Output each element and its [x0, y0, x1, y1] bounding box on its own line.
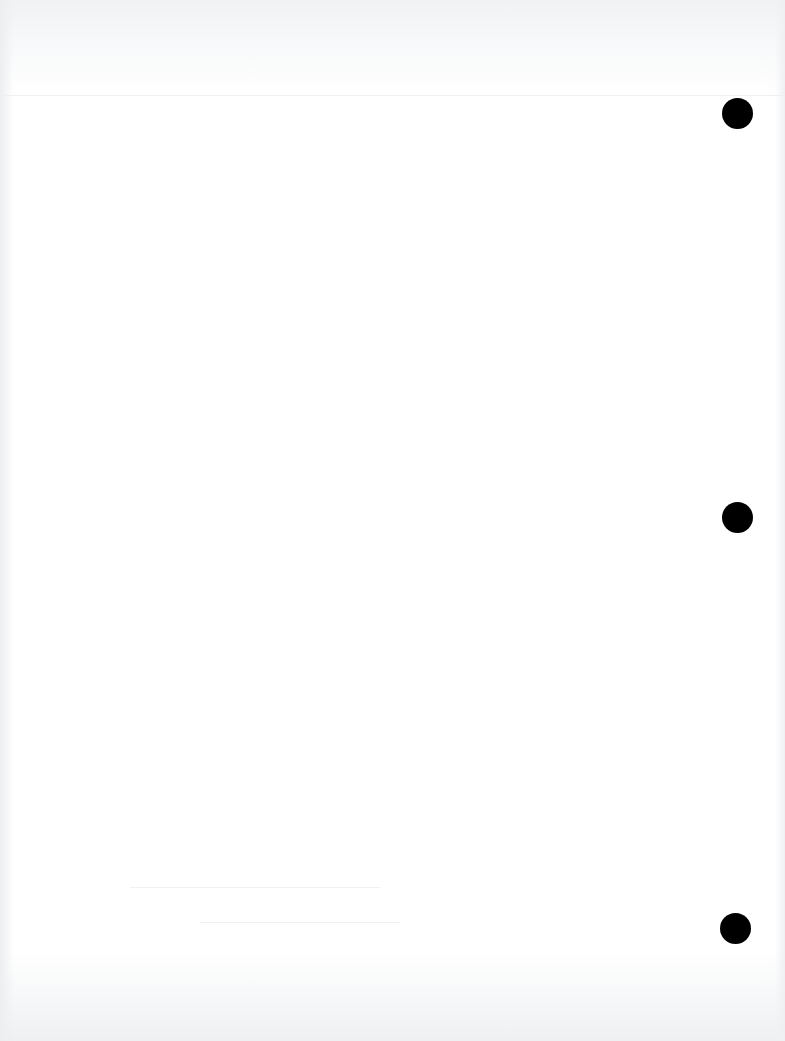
- scan-shadow-right: [775, 0, 785, 1041]
- scan-artifact-line: [130, 887, 380, 888]
- punch-hole: [720, 913, 751, 944]
- scan-shadow-left: [0, 0, 14, 1041]
- blank-page: [0, 0, 785, 1041]
- scan-artifact-line: [200, 922, 400, 923]
- scan-artifact-line: [0, 95, 785, 96]
- punch-hole: [722, 98, 753, 129]
- punch-hole: [722, 502, 753, 533]
